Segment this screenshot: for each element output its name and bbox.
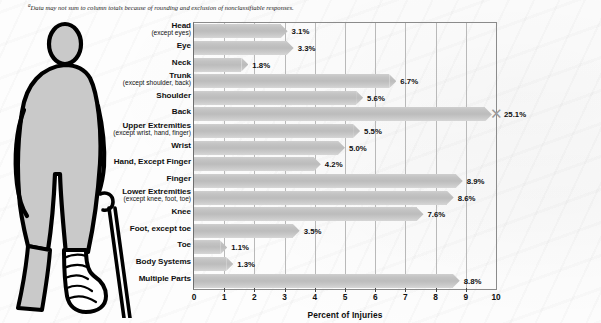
category-label: Finger bbox=[13, 175, 191, 183]
bar bbox=[194, 58, 241, 72]
bar-row bbox=[194, 74, 496, 88]
bar-tip bbox=[356, 91, 363, 105]
category-label-main: Knee bbox=[13, 208, 191, 216]
chart-page: aData may not sum to column totals becau… bbox=[0, 0, 601, 323]
footnote-text: Data may not sum to column totals becaus… bbox=[31, 4, 294, 11]
x-tick-label: 5 bbox=[343, 292, 348, 302]
bar bbox=[194, 124, 353, 138]
bar bbox=[194, 107, 485, 121]
bar-value-label: 4.2% bbox=[325, 160, 343, 169]
bar-value-label: 1.3% bbox=[237, 260, 255, 269]
bar-row bbox=[194, 191, 496, 205]
x-axis: 012345678910 bbox=[193, 292, 497, 306]
bar bbox=[194, 274, 453, 288]
category-label-sub: (except wrist, hand, finger) bbox=[13, 130, 191, 137]
bar-row bbox=[194, 91, 496, 105]
bar-tip bbox=[220, 240, 227, 254]
x-tick-label: 1 bbox=[222, 292, 227, 302]
bar-tip bbox=[281, 24, 288, 38]
bar bbox=[194, 74, 389, 88]
category-label-sub: (except shoulder, back) bbox=[13, 80, 191, 87]
category-label-sub: (except eyes) bbox=[13, 30, 191, 37]
bar-row bbox=[194, 124, 496, 138]
bar-value-label: 5.5% bbox=[364, 127, 382, 136]
x-axis-title: Percent of Injuries bbox=[193, 310, 497, 320]
bar bbox=[194, 41, 287, 55]
axis-break-marker: ✕ bbox=[490, 104, 499, 124]
bar-value-label: 7.6% bbox=[428, 210, 446, 219]
x-tick-mark bbox=[315, 288, 316, 292]
category-label-main: Toe bbox=[13, 241, 191, 249]
bar-value-label: 1.1% bbox=[231, 243, 249, 252]
bar bbox=[194, 91, 356, 105]
bar-tip bbox=[353, 124, 360, 138]
category-label: Trunk(except shoulder, back) bbox=[13, 72, 191, 87]
bar bbox=[194, 240, 220, 254]
bar-value-label: 3.5% bbox=[304, 226, 322, 235]
category-label-main: Foot, except toe bbox=[13, 225, 191, 233]
bar-value-label: 8.8% bbox=[464, 276, 482, 285]
bar-value-label: 6.7% bbox=[400, 77, 418, 86]
bar-row bbox=[194, 107, 496, 121]
x-tick-mark bbox=[285, 288, 286, 292]
bar bbox=[194, 191, 447, 205]
category-label: Body Systems bbox=[13, 258, 191, 266]
x-tick-label: 2 bbox=[252, 292, 257, 302]
bar-row bbox=[194, 141, 496, 155]
category-label: Shoulder bbox=[13, 92, 191, 100]
bar bbox=[194, 257, 226, 271]
bar-value-label: 3.1% bbox=[292, 27, 310, 36]
category-label-main: Finger bbox=[13, 175, 191, 183]
bar-row bbox=[194, 224, 496, 238]
category-label-main: Multiple Parts bbox=[13, 275, 191, 283]
category-label: Head(except eyes) bbox=[13, 22, 191, 37]
bar-tip bbox=[338, 141, 345, 155]
bar-tip bbox=[293, 224, 300, 238]
category-label-sub: (except knee, foot, toe) bbox=[13, 196, 191, 203]
x-tick-label: 9 bbox=[463, 292, 468, 302]
bar-tip bbox=[241, 58, 248, 72]
bar bbox=[194, 174, 456, 188]
horizontal-bar-chart: Head(except eyes)EyeNeckTrunk(except sho… bbox=[0, 18, 601, 323]
bar bbox=[194, 24, 281, 38]
bar-value-label: 3.3% bbox=[298, 43, 316, 52]
bar-value-label: 5.6% bbox=[367, 93, 385, 102]
bar-value-label: 5.0% bbox=[349, 143, 367, 152]
category-label-main: Neck bbox=[13, 59, 191, 67]
category-label: Toe bbox=[13, 241, 191, 249]
category-label: Wrist bbox=[13, 142, 191, 150]
category-label-main: Hand, Except Finger bbox=[13, 158, 191, 166]
category-label-main: Back bbox=[13, 108, 191, 116]
category-labels: Head(except eyes)EyeNeckTrunk(except sho… bbox=[5, 18, 191, 290]
bar-value-label: 1.8% bbox=[252, 60, 270, 69]
category-label: Multiple Parts bbox=[13, 275, 191, 283]
bar-row bbox=[194, 174, 496, 188]
x-tick-label: 7 bbox=[403, 292, 408, 302]
x-tick-mark bbox=[466, 288, 467, 292]
category-label: Upper Extremities(except wrist, hand, fi… bbox=[13, 122, 191, 137]
bar bbox=[194, 207, 417, 221]
plot-area: 3.1%3.3%1.8%6.7%5.6%✕25.1%5.5%5.0%4.2%8.… bbox=[193, 22, 497, 290]
x-tick-mark bbox=[375, 288, 376, 292]
bar-value-label: 8.9% bbox=[467, 176, 485, 185]
x-tick-mark bbox=[436, 288, 437, 292]
bar-tip bbox=[456, 174, 463, 188]
category-label: Foot, except toe bbox=[13, 225, 191, 233]
bar-tip bbox=[389, 74, 396, 88]
x-tick-label: 10 bbox=[491, 292, 500, 302]
x-tick-mark bbox=[254, 288, 255, 292]
bar-tip bbox=[314, 157, 321, 171]
category-label-main: Eye bbox=[13, 42, 191, 50]
x-tick-label: 6 bbox=[373, 292, 378, 302]
x-tick-label: 4 bbox=[312, 292, 317, 302]
category-label: Neck bbox=[13, 59, 191, 67]
x-tick-mark bbox=[405, 288, 406, 292]
bar-tip bbox=[417, 207, 424, 221]
bar-tip bbox=[447, 191, 454, 205]
bar-value-label: 8.6% bbox=[458, 193, 476, 202]
category-label: Knee bbox=[13, 208, 191, 216]
category-label: Back bbox=[13, 108, 191, 116]
category-label-main: Shoulder bbox=[13, 92, 191, 100]
bar-row bbox=[194, 41, 496, 55]
category-label: Lower Extremities(except knee, foot, toe… bbox=[13, 188, 191, 203]
